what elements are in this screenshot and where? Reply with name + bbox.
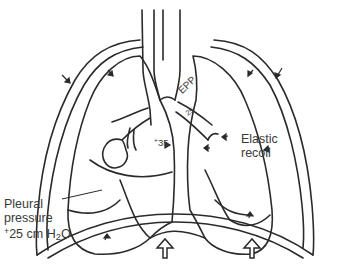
alveolar-pressure-label: +35 bbox=[154, 137, 168, 149]
forced-expiration-diagram: EPP 25 +35 Elastic recoil Pleural pressu… bbox=[0, 0, 343, 278]
pleural-pressure-label: Pleural pressure +25 cm H2O bbox=[4, 197, 71, 242]
elastic-recoil-label: Elastic recoil bbox=[241, 132, 278, 161]
left-bronchus bbox=[112, 108, 148, 122]
